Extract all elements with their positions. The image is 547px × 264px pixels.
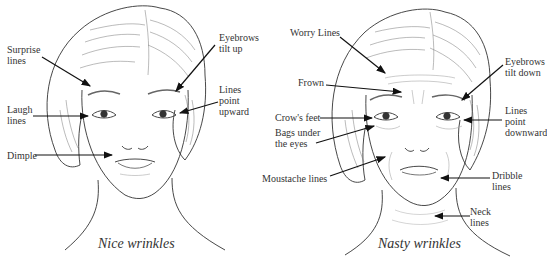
label-eyebrows-tilt-up: Eyebrows tilt up xyxy=(219,32,259,54)
label-moustache-lines: Moustache lines xyxy=(262,173,327,184)
label-surprise-lines: Surprise lines xyxy=(7,44,40,66)
label-laugh-lines: Laugh lines xyxy=(7,104,33,126)
label-lines-point-downward: Lines point downward xyxy=(505,105,547,138)
label-crows-feet: Crow's feet xyxy=(275,112,320,123)
label-eyebrows-tilt-down: Eyebrows tilt down xyxy=(505,56,545,78)
label-bags-under-eyes: Bags under the eyes xyxy=(275,127,320,149)
label-frown: Frown xyxy=(298,77,324,88)
label-dimple: Dimple xyxy=(7,150,37,161)
label-neck-lines: Neck lines xyxy=(470,206,491,228)
nice-face xyxy=(47,6,225,250)
caption-nasty-wrinkles: Nasty wrinkles xyxy=(378,236,461,252)
label-dribble-lines: Dribble lines xyxy=(492,170,523,192)
label-lines-point-upward: Lines point upward xyxy=(219,84,249,117)
caption-nice-wrinkles: Nice wrinkles xyxy=(98,236,175,252)
label-worry-lines: Worry Lines xyxy=(290,27,340,38)
